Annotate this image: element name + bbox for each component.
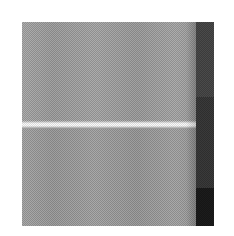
band-seam — [186, 22, 196, 226]
region-field-lower — [22, 127, 196, 226]
region-field-upper — [22, 22, 196, 122]
region-band-dark-upper — [196, 22, 214, 97]
screenshot-canvas — [0, 0, 234, 236]
region-band-dark-lower — [196, 188, 214, 226]
dithered-image-plate — [22, 22, 214, 226]
region-band-dark-middle — [196, 97, 214, 188]
region-highlight-stripe — [22, 120, 196, 129]
